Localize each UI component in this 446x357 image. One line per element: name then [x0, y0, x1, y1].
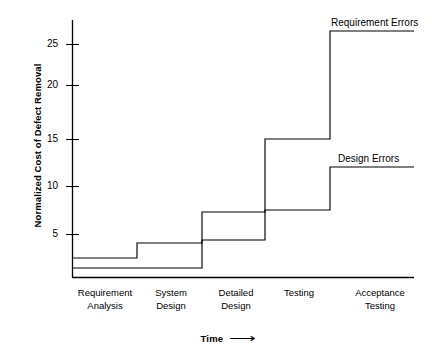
y-tick-label-5: 5 [32, 229, 58, 239]
x-category-label-detailed-design: Detailed Design [200, 287, 272, 312]
series-line-design-errors [72, 167, 414, 268]
y-tick-label-10: 10 [32, 181, 58, 191]
series-line-requirement-errors [72, 31, 414, 258]
x-category-label-system-design: System Design [135, 287, 207, 312]
x-axis-title-text: Time [200, 333, 223, 344]
y-tick-label-15: 15 [32, 134, 58, 144]
y-tick-label-25: 25 [32, 39, 58, 49]
series-label-design-errors: Design Errors [338, 153, 399, 164]
x-category-label-testing: Testing [268, 287, 330, 300]
x-axis-title: Time⟶ [0, 332, 446, 345]
y-tick-label-20: 20 [32, 80, 58, 90]
x-category-label-requirement-analysis: Requirement Analysis [64, 287, 146, 312]
series-label-requirement-errors: Requirement Errors [331, 17, 418, 28]
step-chart-figure: Normalized Cost of Defect Removal 25 20 … [0, 0, 446, 357]
arrow-right-icon: ⟶ [229, 332, 257, 345]
y-axis-title: Normalized Cost of Defect Removal [32, 31, 43, 261]
x-category-label-acceptance-testing: Acceptance Testing [337, 287, 423, 312]
